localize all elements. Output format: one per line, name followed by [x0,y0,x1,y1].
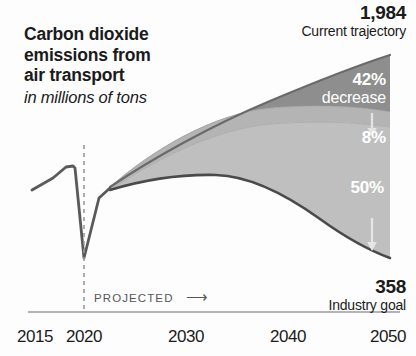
x-tick-2020: 2020 [66,327,102,347]
annotation-current-trajectory: 1,984 Current trajectory [301,2,406,40]
current-trajectory-value: 1,984 [301,2,406,23]
industry-goal-caption: Industry goal [328,297,406,314]
projected-arrow-icon: ⟶ [178,288,208,305]
band-label-42-decrease: 42% decrease [256,70,386,107]
x-tick-2050: 2050 [370,327,406,347]
line-historical [32,166,110,258]
band-42-word: decrease [256,89,386,107]
page-title-line-2: emissions from [24,45,204,66]
projected-text: PROJECTED [94,292,174,304]
chart-title-block: Carbon dioxide emissions from air transp… [24,24,204,108]
chart-subtitle: in millions of tons [24,86,204,108]
band-42-percent: 42% [256,70,386,89]
band-50-percent: 50% [294,178,384,197]
band-label-8-decrease: 8% [296,128,386,147]
band-8-percent: 8% [296,128,386,147]
page-title-line-3: air transport [24,65,204,86]
projected-note: PROJECTED ⟶ [94,288,208,306]
band-label-50-decrease: 50% [294,178,384,197]
annotation-industry-goal: 358 Industry goal [328,276,406,314]
industry-goal-value: 358 [328,276,406,297]
current-trajectory-caption: Current trajectory [301,23,406,40]
page-title-line-1: Carbon dioxide [24,24,204,45]
chart-figure: Carbon dioxide emissions from air transp… [0,0,416,356]
x-tick-2015: 2015 [17,327,53,347]
x-tick-2040: 2040 [270,327,306,347]
x-tick-2030: 2030 [168,327,204,347]
